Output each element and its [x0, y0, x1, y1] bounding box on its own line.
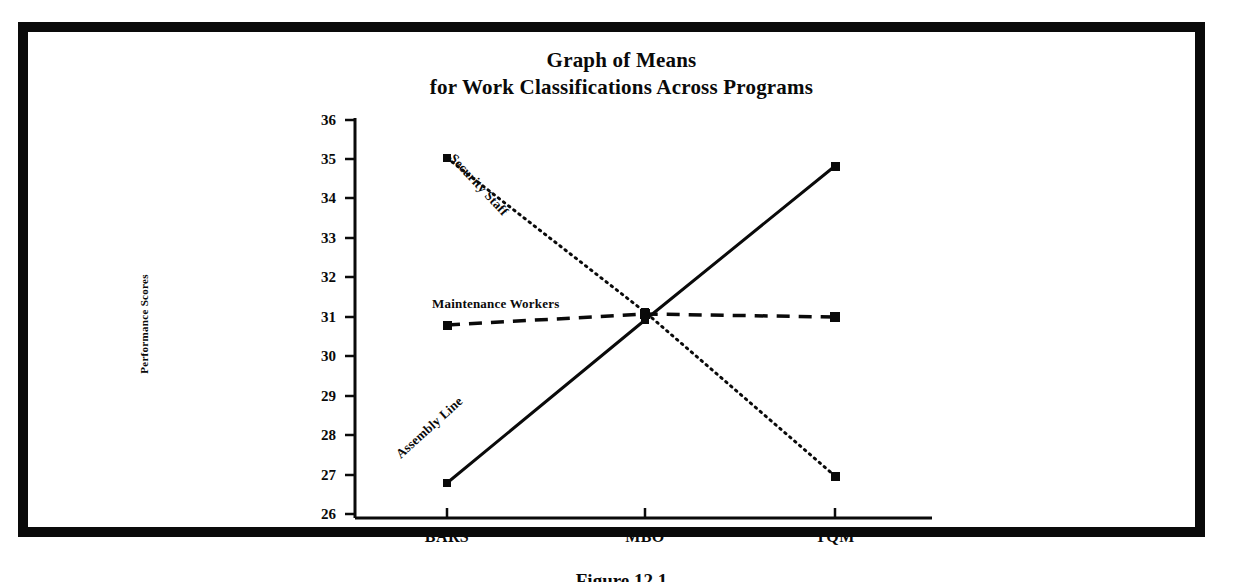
data-point-marker: [443, 479, 451, 487]
figure-caption: Figure 12.1: [0, 570, 1243, 582]
chart-svg: [0, 0, 1243, 582]
series-label-maintenance-workers: Maintenance Workers: [432, 296, 559, 312]
data-point-marker: [831, 162, 840, 171]
data-point-marker: [443, 321, 452, 330]
data-point-marker: [641, 316, 649, 324]
chart-plot-area: Graph of Means for Work Classifications …: [0, 0, 1243, 582]
data-point-marker: [831, 472, 840, 481]
figure-page: Graph of Means for Work Classifications …: [0, 0, 1243, 582]
data-point-marker: [830, 312, 840, 322]
